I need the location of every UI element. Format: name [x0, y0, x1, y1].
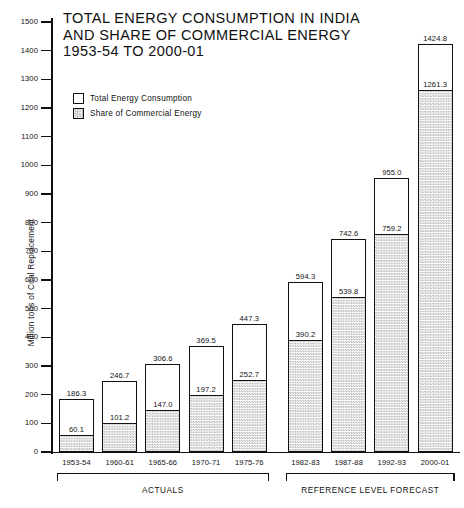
- bar-share-1975-76: [232, 380, 267, 452]
- value-label-total-1987-88: 742.6: [326, 229, 371, 238]
- bracket-cap-right: [268, 473, 269, 481]
- bracket-cap-left: [57, 473, 58, 481]
- value-label-total-1960-61: 246.7: [97, 371, 142, 380]
- bar-share-1960-61: [102, 423, 137, 452]
- value-label-share-1965-66: 147.0: [140, 400, 185, 409]
- value-label-share-1992-93: 759.2: [369, 224, 414, 233]
- bracket-cap-right: [453, 473, 454, 481]
- group-label-actuals: ACTUALS: [57, 486, 269, 495]
- bar-share-1987-88: [331, 297, 366, 452]
- plot-area: 186.360.11953-54246.7101.21960-61306.614…: [0, 0, 464, 508]
- bracket-line: [286, 473, 455, 474]
- x-axis-label-1987-88: 1987-88: [326, 458, 372, 467]
- value-label-total-1965-66: 306.6: [140, 354, 185, 363]
- bracket-line: [57, 473, 269, 474]
- value-label-total-1970-71: 369.5: [184, 336, 229, 345]
- value-label-total-1953-54: 186.3: [54, 389, 99, 398]
- value-label-share-1960-61: 101.2: [97, 413, 142, 422]
- value-label-total-1982-83: 594.3: [283, 272, 328, 281]
- value-label-share-1987-88: 539.8: [326, 287, 371, 296]
- bar-share-1970-71: [189, 395, 224, 452]
- x-axis-label-1982-83: 1982-83: [283, 458, 329, 467]
- bar-share-1953-54: [59, 435, 94, 452]
- group-label-forecast: REFERENCE LEVEL FORECAST: [286, 486, 455, 495]
- bar-share-1965-66: [145, 410, 180, 452]
- value-label-share-1970-71: 197.2: [184, 385, 229, 394]
- x-axis-label-1953-54: 1953-54: [54, 458, 100, 467]
- x-axis-label-2000-01: 2000-01: [412, 458, 458, 467]
- bar-share-2000-01: [418, 90, 453, 452]
- value-label-share-1982-83: 390.2: [283, 330, 328, 339]
- value-label-share-1953-54: 60.1: [54, 425, 99, 434]
- bracket-cap-left: [286, 473, 287, 481]
- bar-share-1982-83: [288, 340, 323, 452]
- x-axis-label-1970-71: 1970-71: [183, 458, 229, 467]
- x-axis-label-1960-61: 1960-61: [97, 458, 143, 467]
- value-label-share-2000-01: 1261.3: [413, 80, 458, 89]
- value-label-total-2000-01: 1424.8: [413, 34, 458, 43]
- energy-consumption-bar-chart: TOTAL ENERGY CONSUMPTION IN INDIA AND SH…: [0, 0, 464, 508]
- x-axis-label-1965-66: 1965-66: [140, 458, 186, 467]
- bar-share-1992-93: [374, 234, 409, 452]
- x-axis-label-1992-93: 1992-93: [369, 458, 415, 467]
- value-label-total-1992-93: 955.0: [369, 168, 414, 177]
- x-axis-label-1975-76: 1975-76: [226, 458, 272, 467]
- value-label-share-1975-76: 252.7: [227, 370, 272, 379]
- value-label-total-1975-76: 447.3: [227, 314, 272, 323]
